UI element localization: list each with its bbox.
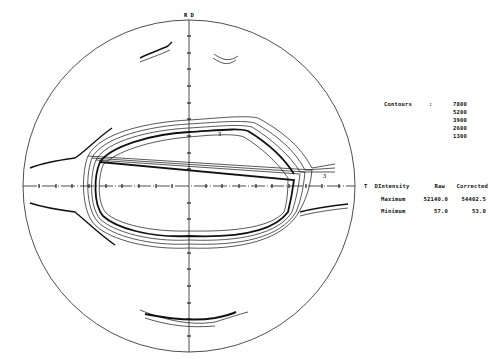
axis-label-td: T D bbox=[364, 183, 378, 189]
corrected-header: Corrected bbox=[450, 183, 488, 189]
pole-figure-plot: R D 3 3 bbox=[0, 0, 498, 359]
intensity-header: Intensity bbox=[378, 183, 410, 189]
contour-level: 2600 bbox=[453, 125, 467, 131]
contour-level: 7800 bbox=[453, 101, 467, 107]
contour-level: 1300 bbox=[453, 133, 467, 139]
minimum-label: Minimum bbox=[381, 208, 406, 214]
contours-label: Contours bbox=[384, 101, 412, 107]
contour-level: 3900 bbox=[453, 117, 467, 123]
maximum-corrected: 54402.5 bbox=[450, 196, 486, 202]
contour-annotation: 3 bbox=[218, 131, 221, 137]
maximum-label: Maximum bbox=[381, 196, 406, 202]
contour-level: 5200 bbox=[453, 109, 467, 115]
minimum-corrected: 53.0 bbox=[450, 208, 486, 214]
raw-header: Raw bbox=[415, 183, 445, 189]
maximum-raw: 52140.0 bbox=[412, 196, 448, 202]
axis-label-rd: R D bbox=[184, 12, 195, 18]
contours-separator: : bbox=[429, 101, 433, 107]
minimum-raw: 57.0 bbox=[412, 208, 448, 214]
contour-annotation: 3 bbox=[323, 173, 326, 179]
